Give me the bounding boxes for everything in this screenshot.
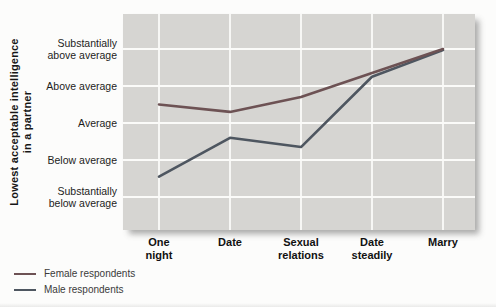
page-edge-shadow xyxy=(0,303,496,307)
y-tick-label-substantially-above: Substantially above average xyxy=(0,37,117,61)
male-line-swatch xyxy=(14,289,36,291)
legend: Female respondents Male respondents xyxy=(14,266,135,298)
y-tick-label-above: Above average xyxy=(0,80,117,92)
chart-canvas xyxy=(123,14,475,230)
y-tick-label-below: Below average xyxy=(0,154,117,166)
female-line-swatch xyxy=(14,273,36,275)
figure: Lowest acceptable intelligence in a part… xyxy=(0,0,496,307)
legend-label-male: Male respondents xyxy=(44,282,124,298)
x-tick-label-marry: Marry xyxy=(398,236,488,249)
legend-item-male: Male respondents xyxy=(14,282,135,298)
legend-item-female: Female respondents xyxy=(14,266,135,282)
y-tick-label-substantially-below: Substantially below average xyxy=(0,185,117,209)
y-tick-label-average: Average xyxy=(0,117,117,129)
legend-label-female: Female respondents xyxy=(44,266,135,282)
plot-area xyxy=(123,14,475,230)
